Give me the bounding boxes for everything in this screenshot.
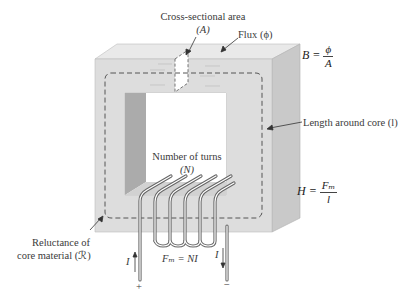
- turns-label: Number of turns: [142, 152, 232, 163]
- cross-section-symbol: (A): [188, 25, 218, 36]
- current-label-right: I: [215, 250, 219, 261]
- core-side-face: [272, 44, 300, 232]
- mmf-label: Fₘ = NI: [162, 254, 198, 265]
- turns-symbol: (N): [172, 165, 202, 176]
- cross-section-label: Cross-sectional area: [148, 12, 258, 23]
- equation-numerator: Fₘ: [320, 180, 337, 193]
- equation-lhs: B =: [302, 48, 320, 62]
- equation-denominator: A: [323, 57, 333, 69]
- current-label-left: I: [126, 257, 130, 268]
- window-left-wall: [125, 93, 146, 195]
- reluctance-label-line2: core material (ℛ): [17, 251, 91, 262]
- minus-terminal: −: [224, 280, 230, 290]
- length-label: Length around core (l): [303, 118, 398, 129]
- flux-label: Flux (ϕ): [238, 30, 272, 41]
- equation-denominator: l: [320, 193, 337, 205]
- equation-numerator: ϕ: [323, 44, 333, 57]
- flux-density-equation: B = ϕA: [302, 44, 333, 69]
- reluctance-label-line1: Reluctance of: [32, 238, 90, 249]
- core-top-face: [95, 44, 300, 59]
- equation-lhs: H =: [297, 184, 317, 198]
- plus-terminal: +: [136, 282, 142, 290]
- field-intensity-equation: H = Fₘl: [297, 180, 337, 205]
